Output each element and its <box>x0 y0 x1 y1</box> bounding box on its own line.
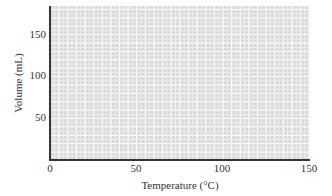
x-axis-label: Temperature (°C) <box>141 179 218 191</box>
x-tick-100: 100 <box>214 163 231 174</box>
x-tick-0: 0 <box>47 163 53 174</box>
y-tick-100: 100 <box>30 70 47 81</box>
plot-area-grid <box>50 6 309 160</box>
y-tick-150: 150 <box>30 29 47 40</box>
y-axis-line <box>49 6 51 161</box>
y-axis-label: Volume (mL) <box>12 53 24 112</box>
x-axis-line <box>49 159 310 161</box>
x-tick-150: 150 <box>301 163 318 174</box>
y-tick-50: 50 <box>35 112 46 123</box>
x-tick-50: 50 <box>131 163 142 174</box>
